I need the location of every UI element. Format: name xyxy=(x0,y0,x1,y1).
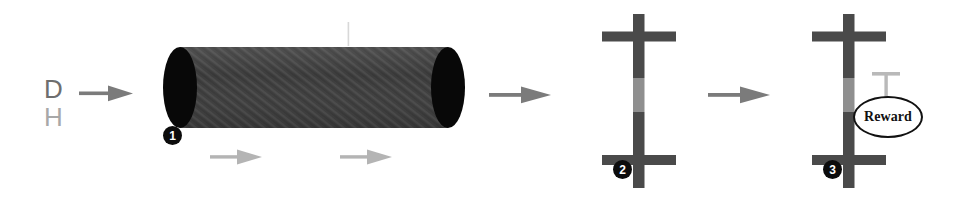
arrow-tube-to-beam-icon xyxy=(489,87,551,104)
tube-cap-left xyxy=(163,47,197,128)
tube-assembly xyxy=(163,22,465,165)
cue-letter-bottom: H xyxy=(44,104,63,130)
step-badge-1: 1 xyxy=(163,126,182,145)
tube-body xyxy=(180,47,448,128)
beam2-stem-lower xyxy=(633,112,645,188)
beam3-stem-upper xyxy=(843,14,855,78)
diagram-artwork xyxy=(0,0,960,200)
reward-label: Reward xyxy=(864,109,912,125)
arrow-beam-to-reward-icon xyxy=(708,87,770,104)
arrow-cue-to-tube-icon xyxy=(79,86,133,102)
step-badge-3: 3 xyxy=(823,160,842,179)
beam3-stem-lower xyxy=(843,112,855,188)
tube-top-marker xyxy=(348,22,350,46)
reward-bubble: Reward xyxy=(853,96,923,138)
arrow-motion-2-icon xyxy=(340,149,392,164)
tube-cap-right xyxy=(431,47,465,128)
beam2-crossbar-bottom xyxy=(602,155,676,165)
beam-assembly-2 xyxy=(602,14,676,188)
beam3-crossbar-top xyxy=(812,32,886,42)
cue-letter-top: D xyxy=(44,76,63,102)
diagram-canvas: D H 1 2 3 Reward xyxy=(0,0,960,200)
beam2-stem-middle xyxy=(633,78,645,112)
step-badge-2: 2 xyxy=(613,160,632,179)
beam3-stem-middle xyxy=(843,78,855,112)
reward-t-connector-icon xyxy=(872,72,900,98)
beam2-crossbar-top xyxy=(602,32,676,42)
beam2-stem-upper xyxy=(633,14,645,78)
beam3-crossbar-bottom xyxy=(812,155,886,165)
arrow-motion-1-icon xyxy=(210,149,262,164)
